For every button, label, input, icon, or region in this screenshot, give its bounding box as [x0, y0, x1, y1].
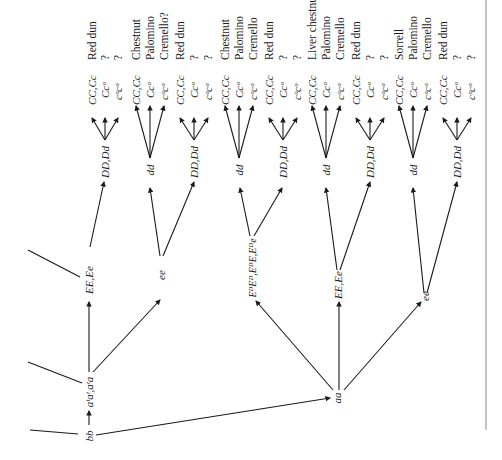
edge-d-leaf [269, 118, 283, 140]
leaf-genotype: cᵒcᵒ [334, 83, 346, 100]
d-node: DD,Dd [188, 145, 200, 179]
phenotype-labels: Red dun??ChestnutPalominoCremello?Red du… [86, 0, 477, 60]
edge-d-leaf [239, 106, 253, 158]
d-node-labels: DD,DdddDD,DdddDD,DdddDD,DdddDD,Dd [99, 145, 463, 179]
edge-d-leaf [312, 106, 326, 158]
edge-bb-aa [96, 398, 330, 435]
e-node-ED: EᴰEᴰ,EᴰE,Eᴰe [247, 238, 258, 299]
edge-ED-DD [254, 188, 282, 236]
d-node: dd [407, 164, 419, 176]
phenotype-label: Cremello? [158, 12, 170, 60]
d-node: dd [233, 164, 245, 176]
leaf-genotype: cᵒcᵒ [247, 83, 259, 100]
leaf-genotype-labels: CC,CcCcᵒcᵒcᵒCC,CcCcᵒcᵒcᵒCC,CcCcᵒcᵒcᵒCC,C… [86, 75, 477, 105]
edge-d-leaf [92, 118, 105, 140]
phenotype-label: Cremello [421, 17, 433, 60]
leaf-genotype: CC,Cc [393, 75, 405, 105]
edge-EE2-DD [340, 182, 370, 270]
phenotype-label: Red dun [350, 21, 362, 60]
d-node: DD,Dd [451, 145, 463, 179]
leaf-genotype: Ccᵒ [320, 82, 332, 98]
tree-canvas: Red dun??ChestnutPalominoCremello?Red du… [0, 0, 502, 460]
leaf-genotype: Ccᵒ [188, 82, 200, 98]
phenotype-label: ? [364, 55, 376, 60]
d-node: dd [320, 164, 332, 176]
a-node-atat: aᵗaᵗ,aᵗa [83, 376, 95, 407]
edge-atat-ee [93, 300, 160, 372]
phenotype-label: ? [277, 55, 289, 60]
leaf-genotype: Ccᵒ [277, 82, 289, 98]
phenotype-label: ? [465, 55, 477, 60]
edge-d-leaf [180, 118, 194, 140]
phenotype-label: Liver chestnut [306, 0, 318, 60]
edge-d-leaf [443, 118, 457, 140]
phenotype-label: Cremello [247, 17, 259, 60]
d-node: DD,Dd [364, 145, 376, 179]
leaf-genotype: Ccᵒ [233, 82, 245, 98]
edge-ee2-DD [427, 182, 457, 293]
edge-ee2-dd [413, 188, 424, 293]
d-node: DD,Dd [277, 145, 289, 179]
phenotype-label: Chestnut [130, 18, 142, 60]
edge-aa-ED [256, 301, 333, 390]
phenotype-label: Chestnut [219, 18, 231, 60]
a-node-aa: aa [331, 392, 343, 404]
edge-d-leaf [136, 106, 150, 158]
phenotype-label: ? [99, 55, 111, 60]
e-node-EE-Ee-2: EE,Ee [332, 271, 344, 300]
edge-d-leaf [194, 118, 208, 140]
edge-d-leaf [399, 106, 413, 158]
e-node-EE-Ee-1: EE,Ee [83, 266, 95, 295]
phenotype-label: Palomino [233, 16, 245, 60]
leaf-genotype: CC,Cc [437, 75, 449, 105]
leaf-genotype: cᵒcᵒ [112, 83, 124, 100]
leaf-genotype: CC,Cc [219, 75, 231, 105]
stub-line-middle [28, 362, 82, 383]
phenotype-label: ? [202, 55, 214, 60]
phenotype-label: Red dun [437, 21, 449, 60]
phenotype-label: ? [451, 55, 463, 60]
leaf-genotype: Ccᵒ [451, 82, 463, 98]
phenotype-label: Cremello [334, 17, 346, 60]
phenotype-label: Red dun [86, 21, 98, 60]
leaf-genotype: cᵒcᵒ [291, 83, 303, 100]
root-node-bb: bb [83, 430, 95, 442]
phenotype-label: ? [188, 55, 200, 60]
edge-EE2-dd [326, 188, 337, 270]
edge-d-leaf [225, 106, 239, 158]
edge-d-leaf [370, 118, 384, 140]
edge-EE1-DD [90, 182, 104, 247]
d-node: DD,Dd [99, 145, 111, 179]
leaf-genotype: cᵒcᵒ [465, 83, 477, 100]
edge-ee1-dd [150, 188, 160, 256]
leaf-genotype: Ccᵒ [407, 82, 419, 98]
e-node-ee-2: ee [419, 291, 431, 301]
edge-aa-ee [344, 302, 421, 390]
stub-line-lower [30, 430, 78, 434]
leaf-genotype: cᵒcᵒ [202, 83, 214, 100]
phenotype-label: ? [112, 55, 124, 60]
edge-ED-dd [240, 188, 250, 236]
leaf-genotype: Ccᵒ [364, 82, 376, 98]
leaf-genotype: CC,Cc [306, 75, 318, 105]
edge-d-leaf [105, 118, 118, 140]
leaf-genotype: Ccᵒ [99, 82, 111, 98]
phenotype-label: Palomino [320, 16, 332, 60]
phenotype-label: Palomino [144, 16, 156, 60]
leaf-genotype: Ccᵒ [144, 82, 156, 98]
edge-d-leaf [283, 118, 297, 140]
edge-d-leaf [356, 118, 370, 140]
edge-d-leaf [413, 106, 427, 158]
d-node: dd [144, 164, 156, 176]
leaf-genotype: CC,Cc [263, 75, 275, 105]
leaf-genotype: CC,Cc [174, 75, 186, 105]
edge-ee1-DD [163, 182, 194, 256]
phenotype-label: Red dun [174, 21, 186, 60]
e-node-ee-1: ee [155, 270, 167, 280]
leaf-genotype: cᵒcᵒ [421, 83, 433, 100]
phenotype-label: ? [291, 55, 303, 60]
phenotype-label: Red dun [263, 21, 275, 60]
leaf-genotype: CC,Cc [350, 75, 362, 105]
edge-d-leaf [150, 106, 164, 158]
phenotype-label: Sorrell [393, 29, 405, 60]
